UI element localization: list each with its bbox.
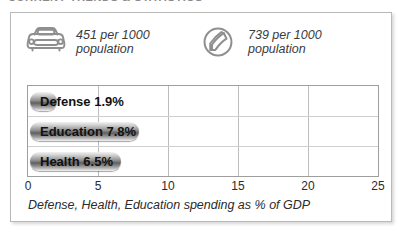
bar-label-defense: Defense 1.9% [40, 92, 124, 111]
x-tick-25: 25 [371, 179, 384, 193]
x-tick-5: 5 [95, 179, 102, 193]
screenshot-root: CURRENT TRENDS & STATISTICS [0, 0, 403, 240]
stats-row: 451 per 1000 population 739 per 1000 pop… [11, 25, 391, 73]
stat-unit-cars: population [76, 42, 150, 56]
car-icon [25, 25, 67, 59]
x-tick-10: 10 [161, 179, 174, 193]
grid-line-vertical [168, 86, 169, 176]
stat-text-telephones: 739 per 1000 population [248, 28, 322, 56]
stat-text-cars: 451 per 1000 population [76, 28, 150, 56]
telephone-icon [197, 25, 239, 59]
bar-chart: Defense 1.9%Education 7.8%Health 6.5% [27, 85, 379, 177]
chart-caption: Defense, Health, Education spending as %… [28, 198, 310, 212]
x-tick-20: 20 [301, 179, 314, 193]
statistics-panel: 451 per 1000 population 739 per 1000 pop… [10, 12, 392, 222]
stat-value-telephones: 739 per 1000 [248, 28, 322, 42]
grid-line-vertical [308, 86, 309, 176]
grid-line-horizontal [28, 116, 378, 117]
stat-unit-telephones: population [248, 42, 322, 56]
bar-label-health: Health 6.5% [40, 152, 113, 171]
x-tick-15: 15 [231, 179, 244, 193]
stat-value-cars: 451 per 1000 [76, 28, 150, 42]
plot-area: Defense 1.9%Education 7.8%Health 6.5% [27, 85, 379, 177]
x-axis-tick-labels: 0510152025 [27, 179, 379, 195]
stat-item-telephones: 739 per 1000 population [197, 25, 322, 59]
bar-label-education: Education 7.8% [40, 122, 136, 141]
clipped-section-heading: CURRENT TRENDS & STATISTICS [8, 0, 308, 5]
grid-line-vertical [238, 86, 239, 176]
x-tick-0: 0 [25, 179, 32, 193]
stat-item-cars: 451 per 1000 population [25, 25, 150, 59]
grid-line-horizontal [28, 146, 378, 147]
